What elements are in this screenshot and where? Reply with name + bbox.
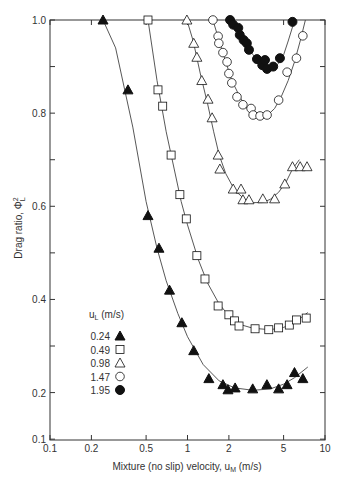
filled-circle-marker [269, 62, 278, 71]
open-circle-marker [219, 48, 228, 57]
legend-label: 0.24 [91, 331, 111, 342]
x-tick-label: 5 [281, 443, 287, 454]
open-circle-marker [233, 93, 242, 102]
open-square-marker [167, 151, 175, 159]
x-tick-label: 2 [226, 443, 232, 454]
legend-entries: 0.240.490.981.471.95 [91, 331, 125, 396]
open-triangle-marker [302, 162, 312, 171]
open-circle-marker [209, 16, 218, 25]
legend-label: 0.98 [91, 358, 111, 369]
open-square-marker [275, 324, 283, 332]
x-tick-label: 10 [319, 443, 331, 454]
open-square-marker [182, 215, 190, 223]
y-axis-title: Drag ratio, Φ2L [12, 197, 26, 258]
open-square-marker [193, 252, 201, 260]
filled-triangle-marker [189, 346, 199, 355]
open-square-marker [144, 16, 152, 24]
open-square-marker [176, 191, 184, 199]
open-square-marker [201, 275, 209, 283]
y-tick-label: 0.6 [32, 201, 46, 212]
y-tick-label: 0.8 [32, 108, 46, 119]
filled-triangle-marker [165, 285, 175, 294]
x-tick-label: 0.2 [84, 443, 98, 454]
legend-label: 0.49 [91, 345, 111, 356]
y-tick-label: 1.0 [32, 15, 46, 26]
open-circle-marker [274, 96, 283, 105]
y-axis: 0.10.20.40.60.81.0 [32, 15, 325, 445]
legend-open-square-icon [116, 346, 124, 354]
fit-curves [103, 20, 308, 390]
open-square-marker [154, 86, 162, 94]
open-triangle-marker [236, 184, 246, 193]
open-triangle-marker [207, 113, 217, 122]
open-circle-marker [299, 32, 308, 41]
open-triangle-marker [280, 179, 290, 188]
filled-triangle-marker [177, 318, 187, 327]
legend-title: uL (m/s) [89, 309, 124, 321]
open-triangle-marker [213, 150, 223, 159]
open-triangle-marker [203, 94, 213, 103]
open-triangle-marker [189, 38, 199, 47]
filled-circle-marker [260, 56, 269, 65]
filled-circle-marker [244, 45, 253, 54]
open-circle-marker [225, 69, 234, 78]
legend-label: 1.95 [91, 385, 111, 396]
open-triangle-marker [258, 194, 268, 203]
fit-curve-0.98 [187, 20, 299, 203]
open-triangle-marker [192, 52, 202, 61]
legend: uL (m/s) 0.240.490.981.471.95 [89, 309, 125, 396]
open-circle-marker [228, 79, 237, 88]
filled-triangle-marker [204, 374, 214, 383]
open-triangle-marker [197, 76, 207, 85]
open-circle-marker [215, 39, 224, 48]
open-circle-marker [263, 111, 272, 120]
open-square-marker [292, 316, 300, 324]
y-tick-label: 0.4 [32, 294, 46, 305]
legend-open-triangle-icon [115, 358, 125, 367]
x-tick-label: 0.5 [139, 443, 153, 454]
open-triangle-marker [215, 164, 225, 173]
open-square-marker [214, 302, 222, 310]
drag-ratio-chart: 0.10.20.512510 0.10.20.40.60.81.0 Mixtur… [0, 0, 346, 478]
open-square-marker [235, 322, 243, 330]
filled-triangle-marker [230, 383, 240, 392]
open-square-marker [159, 102, 167, 110]
filled-circle-marker [288, 17, 297, 26]
open-circle-marker [239, 100, 248, 109]
open-circle-marker [283, 68, 292, 77]
x-axis-title: Mixture (no slip) velocity, uM (m/s) [112, 461, 261, 473]
x-tick-label: 1 [185, 443, 191, 454]
legend-label: 1.47 [91, 372, 111, 383]
filled-triangle-marker [289, 368, 299, 377]
filled-triangle-marker [262, 380, 272, 389]
filled-triangle-marker [298, 374, 308, 383]
filled-triangle-marker [143, 211, 153, 220]
series-1.95 [226, 16, 297, 74]
y-tick-label: 0.1 [32, 434, 46, 445]
fit-curve-0.24 [103, 20, 308, 390]
open-circle-marker [223, 58, 232, 67]
legend-filled-triangle-icon [115, 331, 125, 340]
open-square-marker [302, 314, 310, 322]
legend-open-circle-icon [116, 372, 125, 381]
open-circle-marker [292, 54, 301, 63]
legend-filled-circle-icon [116, 386, 125, 395]
series-0.24 [98, 15, 308, 394]
filled-triangle-marker [154, 243, 164, 252]
data-markers [98, 15, 312, 394]
open-square-marker [251, 325, 259, 333]
filled-triangle-marker [248, 384, 258, 393]
open-square-marker [265, 326, 273, 334]
y-tick-label: 0.2 [32, 388, 46, 399]
filled-circle-marker [275, 54, 284, 63]
